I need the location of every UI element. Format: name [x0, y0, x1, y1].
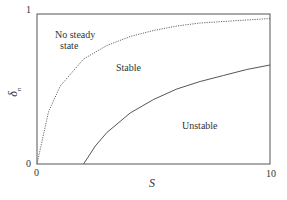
x-tick-0: 0: [34, 167, 39, 178]
x-tick-10: 10: [266, 168, 276, 179]
y-axis-label: δn: [8, 88, 24, 97]
y-axis-label-main: δ: [6, 91, 20, 97]
region-label-stable: Stable: [116, 62, 141, 73]
y-axis-label-sub: n: [15, 88, 23, 92]
phase-diagram: [0, 0, 287, 200]
region-label-line1: No steady: [55, 29, 95, 40]
region-label-no-steady-state: No steady state: [55, 29, 95, 51]
stability-boundary: [84, 65, 270, 164]
y-tick-1: 1: [26, 4, 31, 15]
x-axis-label: S: [149, 178, 155, 189]
y-tick-0: 0: [26, 158, 31, 169]
region-label-line2: state: [55, 40, 95, 51]
region-label-unstable: Unstable: [182, 120, 218, 131]
